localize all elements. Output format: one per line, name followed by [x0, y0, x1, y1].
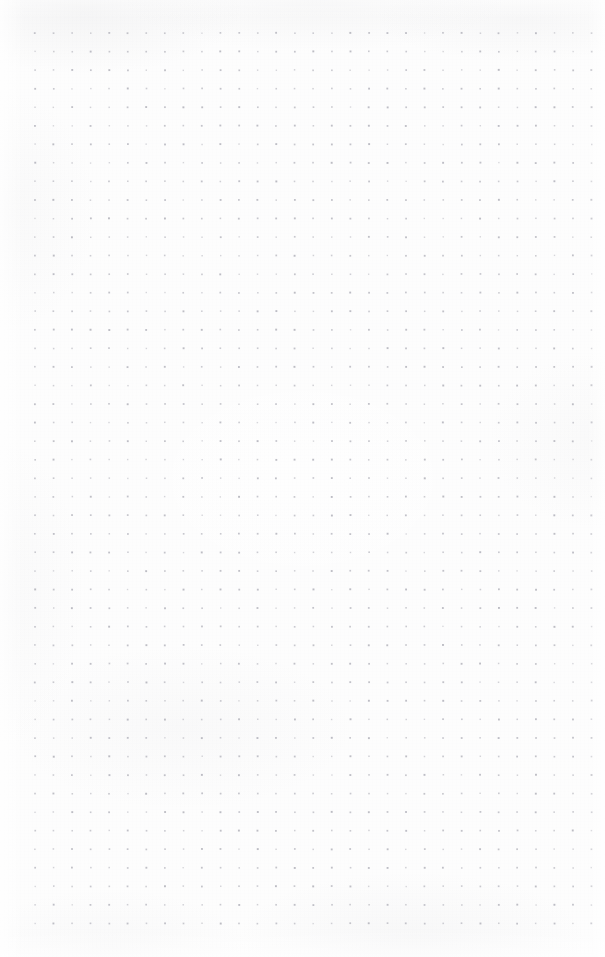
- grid-dot: [238, 366, 240, 368]
- grid-dot: [313, 496, 314, 497]
- grid-dot: [535, 366, 537, 368]
- grid-dot: [294, 737, 295, 738]
- grid-dot: [71, 422, 73, 424]
- grid-dot: [294, 51, 296, 53]
- grid-dot: [424, 143, 425, 144]
- grid-dot: [331, 310, 333, 312]
- grid-dot: [424, 496, 426, 498]
- grid-dot: [535, 830, 537, 832]
- grid-dot: [238, 143, 239, 144]
- grid-dot: [146, 589, 148, 591]
- grid-dot: [164, 719, 166, 721]
- grid-dot: [294, 88, 296, 90]
- grid-dot: [498, 588, 500, 590]
- grid-dot: [461, 218, 462, 219]
- grid-dot: [257, 774, 259, 776]
- grid-dot: [90, 867, 92, 869]
- grid-dot: [313, 477, 315, 479]
- grid-dot: [442, 551, 444, 553]
- grid-dot: [201, 515, 202, 516]
- grid-dot: [220, 106, 222, 108]
- grid-dot: [257, 106, 259, 108]
- grid-dot: [535, 923, 536, 924]
- grid-dot: [535, 32, 537, 34]
- grid-dot: [479, 551, 481, 553]
- grid-dot: [368, 459, 370, 461]
- grid-dot: [53, 681, 55, 683]
- grid-dot: [238, 404, 239, 405]
- grid-dot: [145, 143, 146, 144]
- grid-dot: [238, 570, 240, 572]
- grid-dot: [53, 570, 54, 571]
- grid-dot: [368, 366, 370, 368]
- grid-dot: [331, 329, 333, 331]
- grid-dot: [146, 348, 147, 349]
- grid-dot: [294, 682, 295, 683]
- grid-dot: [275, 366, 277, 368]
- grid-dot: [201, 218, 203, 220]
- grid-dot: [220, 515, 221, 516]
- grid-dot: [127, 125, 129, 127]
- grid-dot: [572, 440, 574, 442]
- grid-dot: [368, 70, 369, 71]
- grid-dot: [146, 162, 148, 164]
- grid-dot: [220, 774, 221, 775]
- grid-dot: [53, 756, 55, 758]
- grid-dot: [90, 88, 91, 89]
- grid-dot: [387, 180, 388, 181]
- grid-dot: [257, 292, 259, 294]
- grid-dot: [294, 311, 295, 312]
- grid-dot: [480, 125, 481, 126]
- grid-dot: [405, 607, 407, 609]
- grid-dot: [424, 811, 426, 813]
- grid-dot: [276, 756, 278, 758]
- grid-dot: [591, 51, 593, 53]
- grid-dot: [90, 403, 92, 405]
- grid-dot: [387, 255, 388, 256]
- grid-dot: [313, 552, 315, 554]
- grid-dot: [201, 237, 202, 238]
- grid-dot: [479, 830, 481, 832]
- grid-dot: [183, 570, 185, 572]
- grid-dot: [591, 626, 592, 627]
- grid-dot: [368, 422, 369, 423]
- grid-dot: [275, 811, 277, 813]
- grid-dot: [516, 440, 518, 442]
- grid-dot: [387, 440, 389, 442]
- grid-dot: [535, 570, 536, 571]
- grid-dot: [257, 162, 258, 163]
- grid-dot: [517, 514, 519, 516]
- grid-dot: [517, 107, 518, 108]
- grid-dot: [554, 422, 556, 424]
- grid-dot: [517, 403, 519, 405]
- grid-dot: [535, 681, 537, 683]
- grid-dot: [331, 811, 333, 813]
- grid-dot: [517, 496, 519, 498]
- grid-dot: [535, 292, 537, 294]
- grid-dot: [590, 236, 592, 238]
- grid-dot: [202, 459, 203, 460]
- grid-dot: [127, 385, 128, 386]
- grid-dot: [368, 830, 370, 832]
- grid-dot: [535, 273, 537, 275]
- grid-dot: [572, 515, 574, 517]
- grid-dot: [331, 700, 332, 701]
- grid-dot: [201, 886, 203, 888]
- grid-dot: [201, 477, 203, 479]
- grid-dot: [535, 774, 537, 776]
- grid-dot: [201, 348, 203, 350]
- grid-dot: [331, 570, 333, 572]
- grid-dot: [572, 236, 573, 237]
- grid-dot: [349, 366, 351, 368]
- grid-dot: [517, 255, 518, 256]
- grid-dot: [257, 347, 259, 349]
- grid-dot: [516, 70, 517, 71]
- grid-dot: [498, 533, 500, 535]
- grid-dot: [276, 774, 278, 776]
- grid-dot: [257, 440, 259, 442]
- grid-dot: [368, 737, 370, 739]
- grid-dot: [535, 700, 537, 702]
- grid-dot: [405, 403, 407, 405]
- grid-dot: [331, 440, 333, 442]
- grid-dot: [349, 922, 351, 924]
